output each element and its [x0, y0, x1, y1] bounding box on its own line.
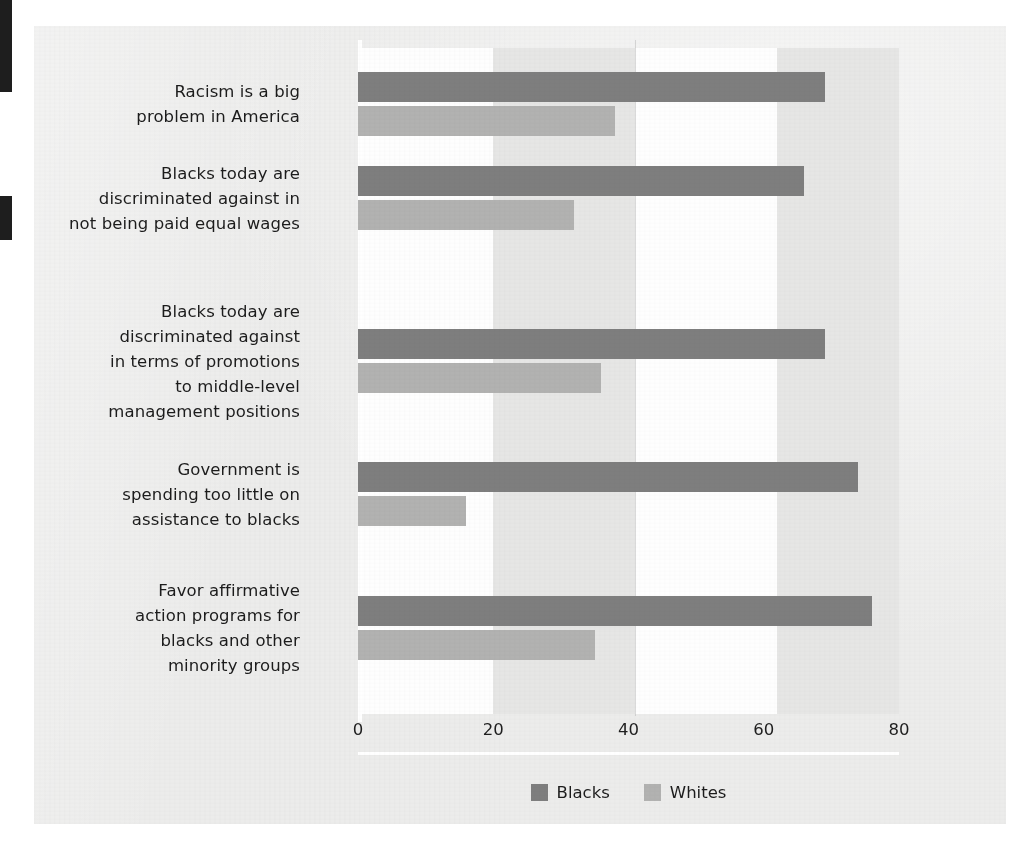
category-label-line: not being paid equal wages — [18, 211, 300, 236]
category-label-line: Government is — [18, 457, 300, 482]
bar-blacks — [358, 462, 858, 492]
bar-whites — [358, 363, 601, 393]
category-label-line: spending too little on — [18, 482, 300, 507]
category-label-line: minority groups — [18, 653, 300, 678]
category-label-line: Favor affirmative — [18, 578, 300, 603]
category-label-line: in terms of promotions — [18, 349, 300, 374]
category-label-line: Blacks today are — [18, 299, 300, 324]
bar-blacks — [358, 72, 825, 102]
category-label: Blacks today arediscriminated againstin … — [18, 299, 300, 424]
category-label: Racism is a bigproblem in America — [18, 79, 300, 129]
category-label-line: problem in America — [18, 104, 300, 129]
category-label-line: discriminated against in — [18, 186, 300, 211]
legend-label: Whites — [670, 783, 727, 802]
x-tick-0: 0 — [338, 720, 378, 739]
category-label: Favor affirmativeaction programs forblac… — [18, 578, 300, 678]
category-label-line: discriminated against — [18, 324, 300, 349]
category-label-line: management positions — [18, 399, 300, 424]
bar-blacks — [358, 596, 872, 626]
category-label-line: action programs for — [18, 603, 300, 628]
legend-item-blacks[interactable]: Blacks — [531, 783, 610, 802]
bar-whites — [358, 200, 574, 230]
category-label-line: to middle-level — [18, 374, 300, 399]
category-label: Blacks today arediscriminated against in… — [18, 161, 300, 236]
scanned-page: Racism is a bigproblem in AmericaBlacks … — [0, 0, 1036, 849]
axis-baseline — [358, 752, 899, 755]
chart-legend: BlacksWhites — [358, 774, 899, 810]
category-label: Government isspending too little onassis… — [18, 457, 300, 532]
bar-whites — [358, 106, 615, 136]
page-edge-mark-top — [0, 0, 12, 92]
x-tick-80: 80 — [879, 720, 919, 739]
x-tick-60: 60 — [744, 720, 784, 739]
legend-label: Blacks — [557, 783, 610, 802]
bar-whites — [358, 630, 595, 660]
category-label-line: Blacks today are — [18, 161, 300, 186]
x-tick-20: 20 — [473, 720, 513, 739]
page-edge-mark-middle — [0, 196, 12, 240]
bar-blacks — [358, 329, 825, 359]
x-tick-40: 40 — [609, 720, 649, 739]
legend-swatch-icon — [531, 784, 548, 801]
bar-chart: Racism is a bigproblem in AmericaBlacks … — [34, 26, 1006, 824]
bar-whites — [358, 496, 466, 526]
legend-item-whites[interactable]: Whites — [644, 783, 727, 802]
category-label-line: blacks and other — [18, 628, 300, 653]
category-label-line: Racism is a big — [18, 79, 300, 104]
category-label-line: assistance to blacks — [18, 507, 300, 532]
bar-blacks — [358, 166, 804, 196]
legend-swatch-icon — [644, 784, 661, 801]
